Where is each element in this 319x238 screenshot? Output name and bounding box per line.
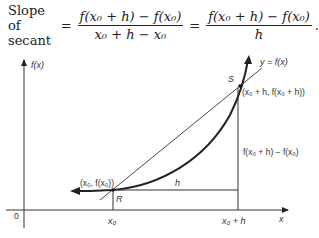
h-label: h: [175, 178, 180, 188]
secant-diagram: f(x) y = f(x) S (x₀ + h, f(x₀ + h)) (x₀,…: [0, 0, 319, 238]
x0-tick-label: x₀: [107, 216, 117, 226]
point-R-dot: [111, 188, 115, 192]
point-S-coords: (x₀ + h, f(x₀ + h)): [242, 87, 305, 97]
rise-label: f(x₀ + h) − f(x₀): [243, 147, 299, 157]
point-S-label: S: [228, 74, 234, 84]
x0h-tick-label: x₀ + h: [221, 216, 246, 226]
curve-up-arrow-icon: [244, 55, 252, 64]
origin-label: 0: [14, 211, 19, 221]
x-axis-label: x: [278, 214, 284, 224]
point-R-coords: (x₀, f(x₀)): [80, 178, 114, 188]
curve-left-arrow-icon: [70, 187, 80, 195]
point-R-label: R: [116, 194, 123, 204]
curve-label: y = f(x): [259, 57, 288, 67]
y-axis-label: f(x): [31, 60, 44, 70]
curve-y-fx: [80, 60, 248, 191]
